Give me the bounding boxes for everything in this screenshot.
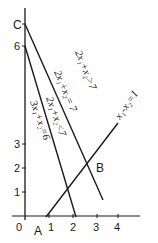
line-x1-minus-x2-eq-1 — [46, 123, 118, 217]
point-label-c: C — [13, 18, 22, 32]
x-tick-3: 3 — [93, 221, 99, 233]
point-label-a: A — [34, 224, 42, 238]
y-tick-2: 2 — [14, 162, 20, 174]
label-x1-minus-x2-eq-1: x₁-x₂=1 — [112, 88, 140, 122]
x-tick-2: 2 — [70, 221, 76, 233]
point-label-b: B — [96, 161, 104, 175]
y-tick-6: 6 — [14, 40, 20, 52]
x-tick-4: 4 — [114, 221, 120, 233]
diagram: 1 2 3 6 0 1 2 3 4 C B A 3x₁+x₂=6 2x₁+x₂=… — [0, 0, 158, 243]
x-tick-0: 0 — [16, 221, 22, 233]
y-tick-1: 1 — [14, 186, 20, 198]
label-2x1-plus-x2-gt-7: 2x₁+x₂>7 — [73, 49, 99, 92]
x-tick-1: 1 — [48, 221, 54, 233]
graph-canvas: 1 2 3 6 0 1 2 3 4 C B A 3x₁+x₂=6 2x₁+x₂=… — [0, 0, 158, 243]
y-tick-3: 3 — [14, 138, 20, 150]
